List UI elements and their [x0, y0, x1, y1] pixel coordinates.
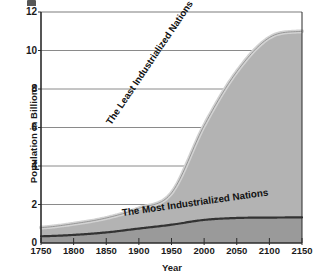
- x-tick-label: 2050: [220, 246, 254, 256]
- x-tick-label: 1750: [24, 246, 58, 256]
- y-tick-label: 8: [21, 84, 37, 94]
- x-tick-label: 1800: [57, 246, 91, 256]
- x-tick-label: 1850: [89, 246, 123, 256]
- x-tick-label: 2100: [252, 246, 286, 256]
- y-tick-label: 6: [21, 123, 37, 133]
- population-area-chart: Population in Billions 024681012 1750180…: [0, 0, 316, 278]
- y-tick-label: 4: [21, 161, 37, 171]
- y-tick-label: 10: [21, 46, 37, 56]
- y-tick-label: 2: [21, 200, 37, 210]
- x-tick-label: 1950: [155, 246, 189, 256]
- x-tick-label: 1900: [122, 246, 156, 256]
- x-axis-tick-labels: 175018001850190019502000205021002150: [0, 246, 316, 260]
- y-axis-tick-labels: 024681012: [18, 0, 37, 278]
- x-tick-label: 2150: [285, 246, 316, 256]
- x-tick-label: 2000: [187, 246, 221, 256]
- y-tick-label: 12: [21, 7, 37, 17]
- area-least-industrialized: [41, 31, 302, 243]
- plot-area: [0, 0, 316, 278]
- x-axis-title: Year: [41, 262, 303, 273]
